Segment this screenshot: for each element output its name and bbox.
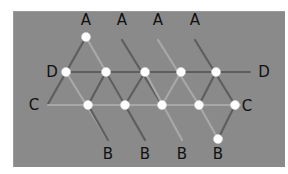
- stick: [125, 72, 145, 105]
- label-a: A: [190, 13, 200, 28]
- label-c: C: [242, 99, 252, 114]
- label-a: A: [81, 13, 91, 28]
- ball-node: [102, 68, 111, 77]
- stick: [162, 72, 181, 105]
- label-b: B: [177, 147, 187, 162]
- stick: [88, 72, 106, 105]
- stick: [199, 105, 218, 139]
- label-c: C: [29, 98, 39, 113]
- ball-node: [231, 101, 240, 110]
- label-a: A: [117, 13, 127, 28]
- label-a: A: [153, 13, 163, 28]
- stick: [218, 105, 235, 139]
- label-b: B: [140, 147, 150, 162]
- ball-node: [82, 33, 91, 42]
- label-d: D: [258, 65, 270, 80]
- ball-node: [62, 68, 71, 77]
- ball-node: [212, 68, 221, 77]
- label-d: D: [46, 65, 58, 80]
- ball-node: [84, 101, 93, 110]
- ball-node: [158, 101, 167, 110]
- ball-node: [141, 68, 150, 77]
- label-b: B: [213, 147, 223, 162]
- ball-node: [195, 101, 204, 110]
- ball-node: [177, 68, 186, 77]
- ball-node: [121, 101, 130, 110]
- stick: [199, 72, 216, 105]
- label-b: B: [103, 147, 113, 162]
- stick: [88, 105, 108, 140]
- ball-node: [214, 135, 223, 144]
